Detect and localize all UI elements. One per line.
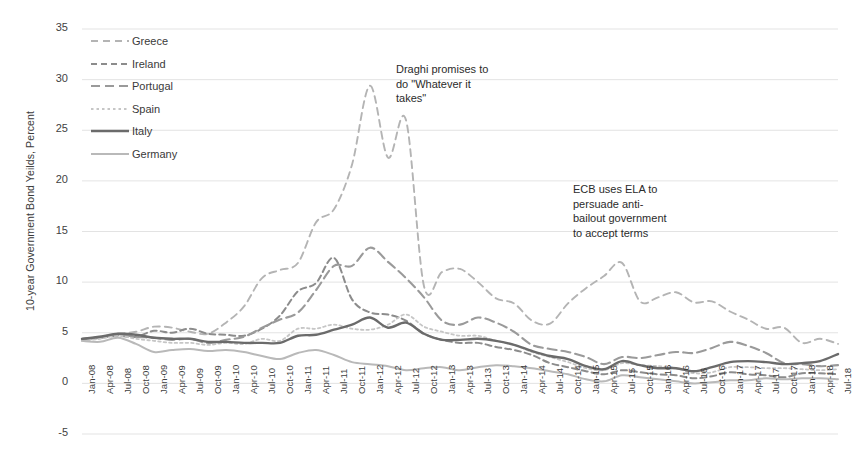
y-tick-25: 25 (36, 122, 68, 134)
x-tick-oct-10: Oct-10 (284, 365, 295, 394)
x-tick-oct-08: Oct-08 (140, 365, 151, 394)
legend-item-portugal[interactable]: Portugal (90, 75, 220, 98)
x-tick-jan-09: Jan-09 (158, 365, 169, 394)
legend-label-ireland: Ireland (130, 58, 166, 70)
x-tick-apr-18: Apr-18 (824, 365, 835, 394)
x-tick-jan-13: Jan-13 (446, 365, 457, 394)
series-line-ireland (82, 258, 838, 379)
x-tick-apr-13: Apr-13 (464, 365, 475, 394)
x-tick-apr-16: Apr-16 (680, 365, 691, 394)
legend-swatch-ireland-icon (90, 58, 130, 70)
x-tick-jan-16: Jan-16 (662, 365, 673, 394)
x-tick-oct-14: Oct-14 (572, 365, 583, 394)
x-tick-oct-11: Oct-11 (356, 366, 367, 394)
legend-item-greece[interactable]: Greece (90, 30, 220, 53)
annotation-draghi: Draghi promises to do "Whatever it takes… (396, 62, 536, 106)
x-tick-jul-14: Jul-14 (554, 368, 565, 394)
legend-item-spain[interactable]: Spain (90, 98, 220, 121)
legend-item-italy[interactable]: Italy (90, 120, 220, 143)
x-tick-jul-10: Jul-10 (266, 368, 277, 394)
legend-swatch-germany-icon (90, 148, 130, 160)
legend-swatch-portugal-icon (90, 80, 130, 92)
chart-legend: GreeceIrelandPortugalSpainItalyGermany (90, 30, 220, 165)
x-tick-jul-16: Jul-16 (698, 368, 709, 394)
x-tick-jan-17: Jan-17 (734, 365, 745, 394)
x-tick-jul-08: Jul-08 (122, 368, 133, 394)
x-tick-jan-11: Jan-11 (302, 365, 313, 394)
legend-swatch-spain-icon (90, 103, 130, 115)
x-tick-apr-17: Apr-17 (752, 365, 763, 394)
x-tick-oct-13: Oct-13 (500, 365, 511, 394)
x-tick-oct-12: Oct-12 (428, 365, 439, 394)
legend-item-germany[interactable]: Germany (90, 143, 220, 166)
legend-swatch-italy-icon (90, 125, 130, 137)
x-tick-jul-11: Jul-11 (338, 369, 349, 394)
x-tick-oct-17: Oct-17 (788, 365, 799, 394)
x-tick-jan-14: Jan-14 (518, 365, 529, 394)
x-tick-jul-09: Jul-09 (194, 368, 205, 394)
x-tick-jan-10: Jan-10 (230, 365, 241, 394)
y-tick-30: 30 (36, 72, 68, 84)
y-tick-0: 0 (36, 375, 68, 387)
y-tick-5: 5 (36, 325, 68, 337)
x-tick-jul-12: Jul-12 (410, 368, 421, 394)
x-tick-apr-15: Apr-15 (608, 365, 619, 394)
y-tick-10: 10 (36, 274, 68, 286)
x-tick-jul-18: Jul-18 (842, 368, 853, 394)
legend-label-portugal: Portugal (130, 80, 173, 92)
legend-item-ireland[interactable]: Ireland (90, 53, 220, 76)
x-tick-apr-12: Apr-12 (392, 365, 403, 394)
y-tick-15: 15 (36, 224, 68, 236)
x-tick-oct-15: Oct-15 (644, 365, 655, 394)
bond-yield-chart: 10-year Government Bond Yeilds, Percent … (0, 0, 862, 466)
y-tick-35: 35 (36, 21, 68, 33)
x-tick-jan-12: Jan-12 (374, 365, 385, 394)
x-tick-apr-14: Apr-14 (536, 365, 547, 394)
y-tick-20: 20 (36, 173, 68, 185)
legend-swatch-greece-icon (90, 35, 130, 47)
y-tick--5: -5 (36, 426, 68, 438)
x-tick-jul-17: Jul-17 (770, 368, 781, 394)
x-tick-jan-18: Jan-18 (806, 365, 817, 394)
x-tick-apr-10: Apr-10 (248, 365, 259, 394)
x-tick-apr-08: Apr-08 (104, 365, 115, 394)
legend-label-italy: Italy (130, 125, 152, 137)
x-tick-oct-09: Oct-09 (212, 365, 223, 394)
legend-label-greece: Greece (130, 35, 168, 47)
x-tick-jul-15: Jul-15 (626, 368, 637, 394)
x-tick-jan-15: Jan-15 (590, 365, 601, 394)
legend-label-germany: Germany (130, 148, 177, 160)
x-tick-jan-08: Jan-08 (86, 365, 97, 394)
annotation-ecb: ECB uses ELA to persuade anti- bailout g… (573, 182, 713, 240)
x-tick-apr-09: Apr-09 (176, 365, 187, 394)
x-tick-apr-11: Apr-11 (320, 366, 331, 394)
legend-label-spain: Spain (130, 103, 160, 115)
x-tick-jul-13: Jul-13 (482, 368, 493, 394)
x-tick-oct-16: Oct-16 (716, 365, 727, 394)
series-line-portugal (82, 248, 838, 367)
